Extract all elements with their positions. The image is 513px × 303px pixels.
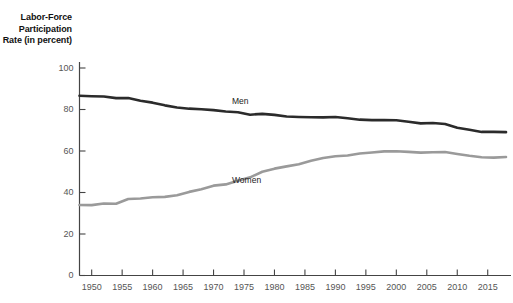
series-line-women [80, 151, 507, 205]
y-axis-tick-label: 20 [46, 230, 74, 239]
x-axis-tick-label: 1995 [349, 283, 383, 292]
x-axis-tick-label: 1965 [166, 283, 200, 292]
series-label-women: Women [232, 176, 261, 185]
x-axis-tick-label: 2010 [440, 283, 474, 292]
x-axis-tick-label: 2015 [471, 283, 505, 292]
series-label-men: Men [232, 97, 249, 106]
x-axis-tick-label: 1970 [197, 283, 231, 292]
y-axis-ticks [80, 68, 86, 276]
series-line-men [80, 96, 507, 132]
data-series-group [80, 96, 507, 205]
x-axis-tick-label: 2005 [410, 283, 444, 292]
axes [80, 62, 512, 276]
plot-area [0, 0, 513, 303]
chart-container: Labor-Force Participation Rate (in perce… [0, 0, 513, 303]
y-axis-tick-label: 100 [46, 64, 74, 73]
y-axis-tick-label: 0 [46, 271, 74, 280]
x-axis-tick-label: 1950 [75, 283, 109, 292]
x-axis-ticks [92, 270, 488, 276]
x-axis-tick-label: 1990 [318, 283, 352, 292]
x-axis-tick-label: 1960 [136, 283, 170, 292]
y-axis-tick-label: 80 [46, 105, 74, 114]
x-axis-tick-label: 1985 [288, 283, 322, 292]
y-axis-tick-label: 40 [46, 188, 74, 197]
y-axis-tick-label: 60 [46, 147, 74, 156]
x-axis-tick-label: 1980 [257, 283, 291, 292]
x-axis-tick-label: 2000 [379, 283, 413, 292]
x-axis-tick-label: 1975 [227, 283, 261, 292]
x-axis-tick-label: 1955 [105, 283, 139, 292]
